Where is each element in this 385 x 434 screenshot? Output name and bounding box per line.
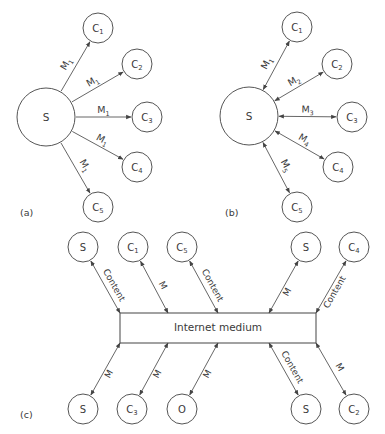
edge-label: M	[103, 368, 116, 380]
server-label: S	[246, 110, 253, 122]
peer-label: S	[303, 404, 309, 415]
diagram-canvas: SC1M1C2M1C3M1C4M1C5M1(a)SC1M1C2M2C3M3C4M…	[0, 0, 385, 434]
medium-peer-top_nodes: SM	[269, 232, 321, 313]
peer-label: S	[80, 404, 86, 415]
panels-a-b: SC1M1C2M1C3M1C4M1C5M1(a)SC1M1C2M2C3M3C4M…	[17, 12, 367, 222]
medium-peer-bottom_nodes: C3M	[117, 343, 168, 424]
panel-a-label: (a)	[20, 207, 33, 218]
medium-peer-bottom_nodes: SContent	[269, 343, 321, 424]
panel-b: SC1M1C2M2C3M3C4M4C5M5(b)	[220, 12, 367, 222]
edge-label: M4	[295, 131, 312, 149]
edge-label: Content	[321, 274, 348, 310]
edge-label: M	[281, 286, 294, 298]
medium-peer-bottom_nodes: C2M	[316, 343, 369, 424]
panel-c-label: (c)	[20, 409, 33, 420]
server-label: S	[43, 111, 50, 123]
medium-peer-top_nodes: C1M	[118, 232, 169, 313]
message-arrow	[279, 116, 336, 117]
peer-label: S	[80, 242, 86, 253]
edge-label: Content	[200, 267, 226, 304]
edge-label: M1	[93, 131, 110, 149]
peer-label: S	[303, 242, 309, 253]
edge-label: M1	[84, 73, 102, 91]
edge-label: M	[201, 368, 213, 380]
medium-peer-top_nodes: C4Content	[316, 232, 369, 313]
edge-label: M2	[286, 73, 304, 91]
panel-c: Internet medium (c) SContentC1MC5Content…	[20, 232, 369, 424]
edge-label: M1	[97, 104, 109, 118]
edge-label: Content	[101, 267, 127, 304]
panel-b-label: (b)	[225, 207, 238, 218]
peer-label: O	[178, 404, 186, 415]
medium-peer-top_nodes: C5Content	[167, 232, 226, 313]
edge-label: M3	[301, 104, 313, 118]
medium-peer-bottom_nodes: SM	[68, 343, 120, 424]
edge-label: M	[157, 280, 169, 292]
panel-a: SC1M1C2M1C3M1C4M1C5M1(a)	[17, 13, 162, 222]
edge-label: M	[151, 368, 163, 380]
edge-label: M	[333, 361, 346, 373]
edge-label: Content	[279, 349, 305, 386]
internet-medium-label: Internet medium	[174, 321, 262, 333]
medium-peer-bottom_nodes: OM	[167, 343, 218, 424]
